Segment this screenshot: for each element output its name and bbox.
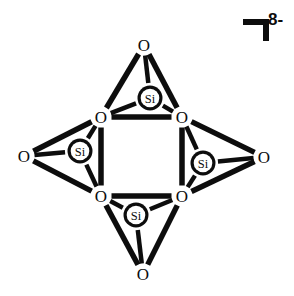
atom-label-si-si-left: Si <box>75 145 86 159</box>
bond-si-bottom-to-o-bridge-br <box>150 200 172 209</box>
charge-annotation: 8- <box>243 10 283 41</box>
bond-o-term-bottom-to-o-bridge-br <box>148 205 178 264</box>
bond-o-term-top-to-o-bridge-tl <box>106 54 138 108</box>
atom-label-o-o-term-top: O <box>138 36 150 55</box>
atom-si-left: Si <box>68 139 93 164</box>
bond-si-top-to-o-bridge-tr <box>163 106 173 112</box>
atom-label-si-si-bottom: Si <box>131 209 142 223</box>
atom-label-o-o-bridge-tr: O <box>176 108 188 127</box>
atom-si-right: Si <box>191 151 216 176</box>
chemical-structure-figure: SiSiSiSiOOOOOOOO 8- <box>0 0 294 296</box>
atom-label-si-si-top: Si <box>145 92 156 106</box>
atom-label-o-o-term-left: O <box>18 147 30 166</box>
atom-o-term-bottom: O <box>133 264 153 284</box>
atom-o-term-top: O <box>134 35 154 55</box>
atom-si-top: Si <box>138 86 163 111</box>
bond-layer <box>33 54 254 265</box>
atom-label-o-o-term-bottom: O <box>137 265 149 284</box>
structure-diagram-canvas: SiSiSiSiOOOOOOOO 8- <box>0 0 294 296</box>
atom-label-o-o-bridge-tl: O <box>95 108 107 127</box>
atom-label-o-o-bridge-bl: O <box>95 187 107 206</box>
atom-o-bridge-tl: O <box>91 107 111 127</box>
atom-label-o-o-term-right: O <box>258 148 270 167</box>
bond-si-bottom-to-o-term-bottom <box>138 230 142 264</box>
bond-si-top-to-o-term-top <box>145 55 148 83</box>
bond-si-top-to-o-bridge-tl <box>111 103 136 113</box>
atom-label-si-si-right: Si <box>198 157 209 171</box>
bond-si-left-to-o-bridge-bl <box>86 165 96 187</box>
bond-si-bottom-to-o-bridge-bl <box>110 201 123 208</box>
bond-si-right-to-o-bridge-tr <box>186 127 196 150</box>
atom-si-bottom: Si <box>124 203 149 228</box>
bond-si-right-to-o-term-right <box>218 158 254 162</box>
bond-si-left-to-o-term-left <box>34 152 65 155</box>
bond-o-term-right-to-o-bridge-tr <box>191 122 254 153</box>
atom-o-term-left: O <box>14 146 34 166</box>
charge-label: 8- <box>268 10 283 29</box>
atom-o-bridge-tr: O <box>172 107 192 127</box>
atom-o-term-right: O <box>254 147 274 167</box>
bond-si-left-to-o-bridge-tl <box>88 126 96 138</box>
bond-si-right-to-o-bridge-br <box>188 176 195 187</box>
atom-o-bridge-br: O <box>172 186 192 206</box>
bond-o-term-left-to-o-bridge-bl <box>33 161 91 191</box>
right-square-bracket-corner-icon <box>243 22 266 41</box>
atom-o-bridge-bl: O <box>91 186 111 206</box>
atom-label-o-o-bridge-br: O <box>176 187 188 206</box>
